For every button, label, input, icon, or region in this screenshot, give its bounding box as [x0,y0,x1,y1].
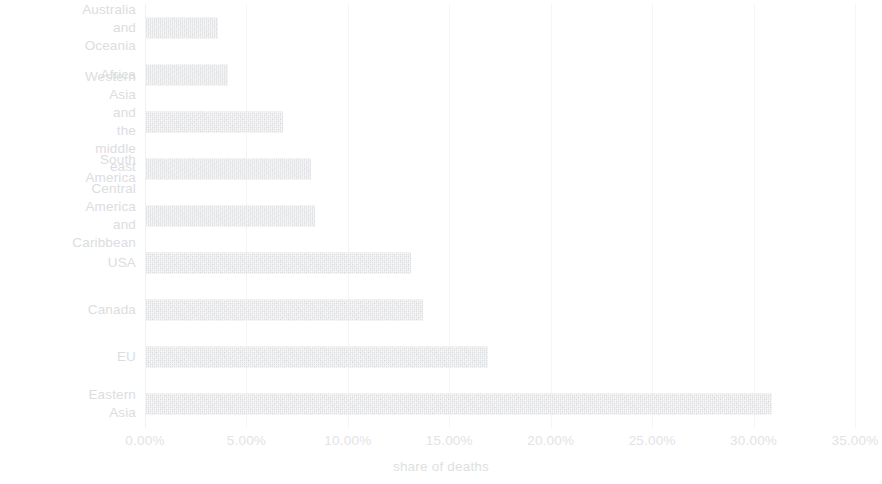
x-axis-title: share of deaths [0,459,882,474]
bar-row: EU [145,334,855,381]
x-tick-label: 30.00% [730,433,777,448]
category-label: Canada [88,301,136,319]
bar-fill [145,394,772,415]
bar [145,64,228,85]
x-tick-label: 5.00% [227,433,266,448]
bar [145,253,411,274]
bar-row: Africa [145,51,855,98]
bar [145,205,315,226]
category-label: Eastern Asia [88,386,136,422]
bar-fill [145,17,218,38]
gridline-35.00% [855,4,856,428]
x-tick-label: 25.00% [629,433,676,448]
x-tick-label: 15.00% [426,433,473,448]
bar [145,394,772,415]
x-tick-label: 10.00% [324,433,371,448]
bar-row: Central America and Caribbean [145,192,855,239]
bar [145,300,423,321]
bar-row: Eastern Asia [145,381,855,428]
bar-row: Canada [145,287,855,334]
bar-row: USA [145,240,855,287]
bar-fill [145,347,488,368]
x-tick-label: 35.00% [832,433,879,448]
plot-area: Australia and OceaniaAfricaWestern Asia … [145,4,855,428]
bar [145,17,218,38]
bar-row: Australia and Oceania [145,4,855,51]
bar [145,111,283,132]
bar-row: South America [145,145,855,192]
bar-chart: Australia and OceaniaAfricaWestern Asia … [0,0,882,484]
bar-fill [145,300,423,321]
x-axis: 0.00%5.00%10.00%15.00%20.00%25.00%30.00%… [145,433,855,455]
category-label: Central America and Caribbean [72,180,136,252]
bar [145,158,311,179]
bar-fill [145,205,315,226]
category-label: EU [117,348,136,366]
x-tick-label: 20.00% [527,433,574,448]
category-label: Australia and Oceania [82,1,136,55]
bar-fill [145,64,228,85]
category-label: USA [108,254,136,272]
x-tick-label: 0.00% [125,433,164,448]
bar-row: Western Asia and the middle east [145,98,855,145]
bar-fill [145,253,411,274]
bar-fill [145,111,283,132]
bar-fill [145,158,311,179]
bar [145,347,488,368]
